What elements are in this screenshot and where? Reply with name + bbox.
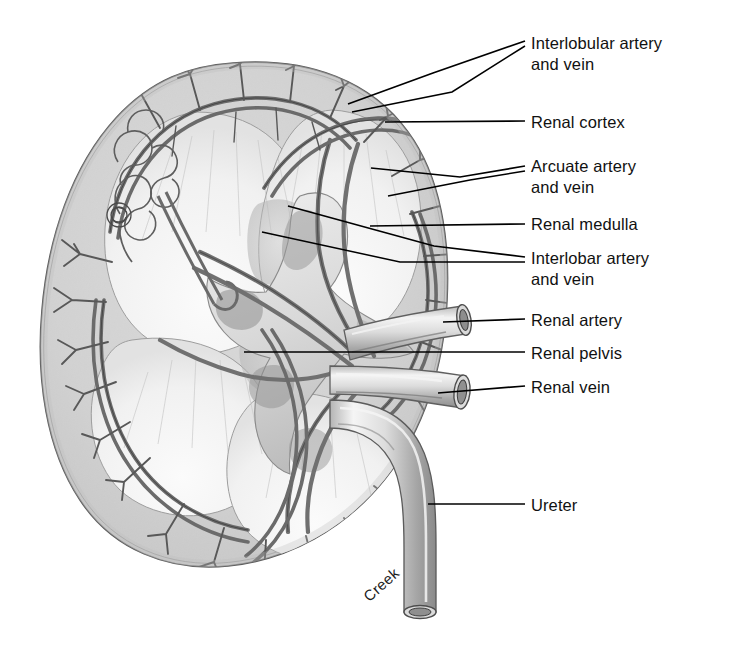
label-renal-cortex: Renal cortex <box>531 112 625 133</box>
label-interlobar-artery-and-vein: Interlobar artery and vein <box>531 248 649 289</box>
label-ureter: Ureter <box>531 495 577 516</box>
label-renal-medulla: Renal medulla <box>531 214 638 235</box>
label-interlobular-artery-and-vein: Interlobular artery and vein <box>531 33 662 74</box>
label-renal-pelvis: Renal pelvis <box>531 343 622 364</box>
label-renal-vein: Renal vein <box>531 377 610 398</box>
label-arcuate-artery-and-vein: Arcuate artery and vein <box>531 156 636 197</box>
kidney-diagram-figure: Interlobular artery and vein Renal corte… <box>0 0 743 656</box>
kidney-illustration <box>0 0 743 656</box>
label-renal-artery: Renal artery <box>531 310 622 331</box>
leader-renal-cortex <box>385 121 525 122</box>
